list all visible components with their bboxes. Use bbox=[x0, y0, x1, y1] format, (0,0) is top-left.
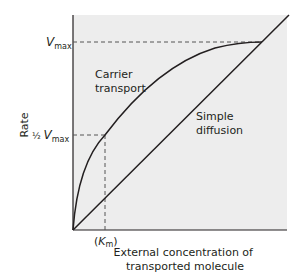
x-axis-label: External concentration of transported mo… bbox=[114, 246, 257, 273]
simple-diffusion-label: Simple diffusion bbox=[196, 110, 243, 137]
vmax-label: Vmax bbox=[46, 35, 72, 51]
y-axis-label: Rate bbox=[18, 112, 31, 137]
half-vmax-label: ½ Vmax bbox=[32, 128, 70, 144]
transport-kinetics-chart: Carrier transport Simple diffusion Vmax … bbox=[0, 0, 303, 277]
